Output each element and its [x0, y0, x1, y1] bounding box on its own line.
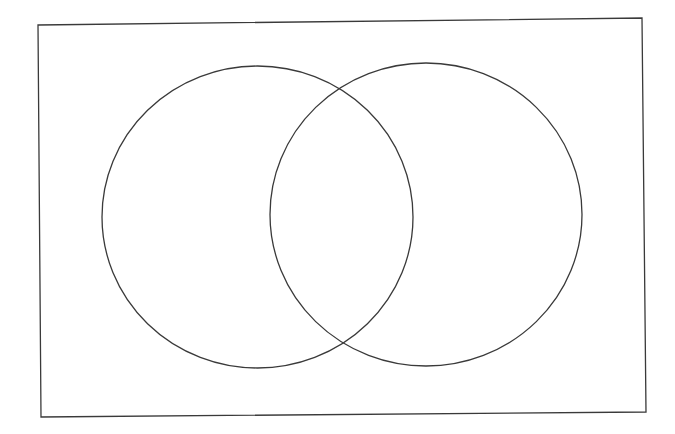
left-set-circle: [102, 66, 413, 368]
universe-rectangle: [38, 18, 646, 417]
right-set-circle: [270, 63, 582, 366]
venn-diagram: [0, 0, 675, 434]
